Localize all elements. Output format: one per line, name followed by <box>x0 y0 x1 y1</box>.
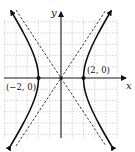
x-axis-label: x <box>126 80 132 91</box>
vertex-right-point <box>82 76 86 80</box>
origin-point <box>59 76 62 79</box>
left-vertex-label: (−2, 0) <box>6 82 36 92</box>
right-vertex-label: (2, 0) <box>87 65 110 75</box>
hyperbola-graph: y x (2, 0) (−2, 0) <box>0 0 135 152</box>
vertex-left-point <box>37 76 41 80</box>
y-axis-label: y <box>50 7 57 18</box>
